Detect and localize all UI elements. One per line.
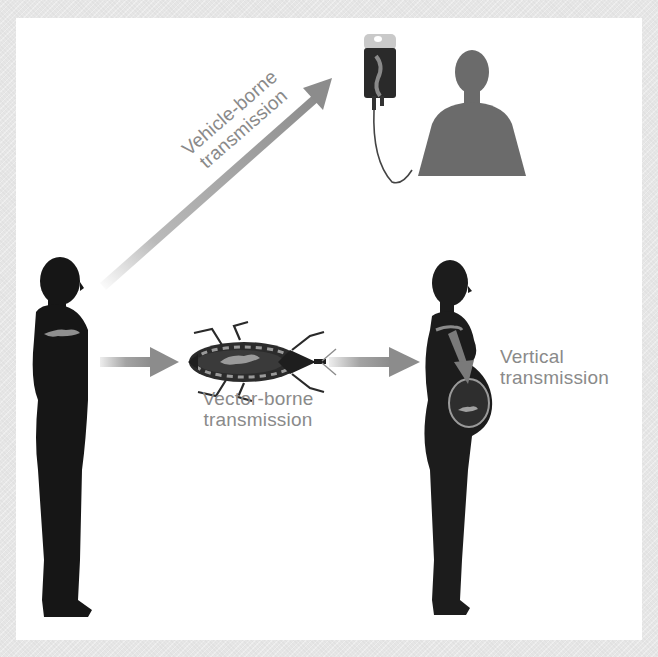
- transfusion-recipient-silhouette: [418, 50, 526, 176]
- vector-borne-label-line1: Vector-borne: [183, 388, 333, 409]
- pregnant-woman-silhouette: [424, 260, 492, 615]
- blood-bag-icon: [364, 34, 412, 183]
- vertical-label-line1: Vertical: [500, 346, 609, 367]
- vertical-transmission-label: Vertical transmission: [500, 346, 609, 388]
- vector-borne-label: Vector-borne transmission: [183, 388, 333, 430]
- diagram-artwork: [0, 0, 658, 657]
- vector-arrow-1: [100, 347, 179, 377]
- vertical-label-line2: transmission: [500, 367, 609, 388]
- vector-arrow-2: [329, 347, 420, 377]
- infected-person-silhouette: [33, 257, 92, 617]
- vector-borne-label-line2: transmission: [183, 409, 333, 430]
